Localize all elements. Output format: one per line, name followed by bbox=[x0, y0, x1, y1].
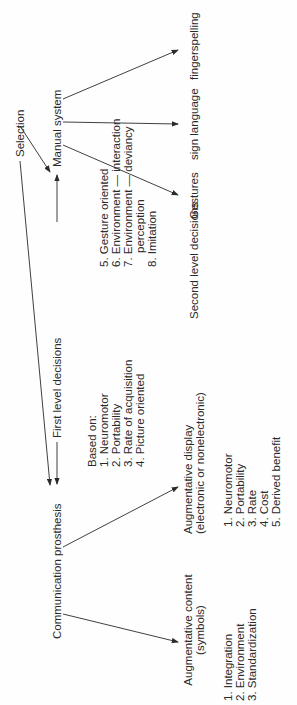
criteria-item: 2. Portability bbox=[234, 437, 246, 527]
node-selection: Selection bbox=[14, 110, 26, 157]
criteria-item: 1. Neuromotor bbox=[222, 437, 234, 527]
node-sign-language: sign language bbox=[188, 88, 200, 160]
node-label: Augmentative display bbox=[182, 392, 194, 534]
second-level-decisions-label: Second level decisions bbox=[188, 202, 200, 319]
based-on-list-left: Based on: 1. Neuromotor 2. Portability 3… bbox=[86, 360, 146, 467]
based-on-item: 3. Rate of acquisition bbox=[122, 360, 134, 467]
node-label: Augmentative content bbox=[182, 555, 194, 705]
based-on-item: 4. Picture oriented bbox=[134, 360, 146, 467]
criteria-item: 5. Derived benefit bbox=[270, 437, 282, 527]
node-manual-system: Manual system bbox=[51, 90, 63, 167]
node-fingerspelling: fingerspelling bbox=[188, 12, 200, 80]
augmentative-content-criteria: 1. Integration 2. Environment 3. Standar… bbox=[222, 608, 258, 701]
node-augmentative-display: Augmentative display (electronic or none… bbox=[182, 392, 206, 534]
based-on-item-continuation: perception bbox=[134, 119, 146, 267]
based-on-item: 5. Gesture oriented bbox=[98, 119, 110, 267]
based-on-item: 7. Environment — deviancy bbox=[122, 119, 134, 267]
based-on-list-right: 5. Gesture oriented 6. Environment — int… bbox=[98, 119, 158, 267]
first-level-decisions-label: First level decisions bbox=[51, 338, 63, 438]
criteria-item: 3. Rate bbox=[246, 437, 258, 527]
criteria-item: 3. Standardization bbox=[246, 608, 258, 701]
based-on-item: 8. Imitation bbox=[146, 119, 158, 267]
based-on-item: 1. Neuromotor bbox=[98, 360, 110, 467]
based-on-item: 2. Portability bbox=[110, 360, 122, 467]
node-augmentative-content: Augmentative content (symbols) bbox=[182, 555, 206, 705]
criteria-item: 2. Environment bbox=[234, 608, 246, 701]
augmentative-display-criteria: 1. Neuromotor 2. Portability 3. Rate 4. … bbox=[222, 437, 282, 527]
node-communication-prosthesis: Communication prosthesis bbox=[51, 503, 63, 639]
node-sublabel: (symbols) bbox=[194, 555, 206, 705]
based-on-heading: Based on: bbox=[86, 360, 98, 467]
node-sublabel: (electronic or nonelectronic) bbox=[194, 392, 206, 534]
criteria-item: 1. Integration bbox=[222, 608, 234, 701]
node-gestures: Gestures bbox=[188, 172, 200, 219]
criteria-item: 4. Cost bbox=[258, 437, 270, 527]
based-on-item: 6. Environment — interaction bbox=[110, 119, 122, 267]
